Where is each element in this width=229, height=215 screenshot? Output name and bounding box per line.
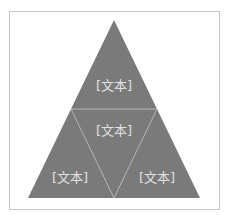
label-top[interactable]: [文本] bbox=[96, 75, 132, 94]
label-center[interactable]: [文本] bbox=[96, 120, 132, 139]
label-bottom-left[interactable]: [文本] bbox=[52, 167, 88, 186]
pyramid-diagram bbox=[0, 0, 229, 215]
label-bottom-right[interactable]: [文本] bbox=[139, 167, 175, 186]
